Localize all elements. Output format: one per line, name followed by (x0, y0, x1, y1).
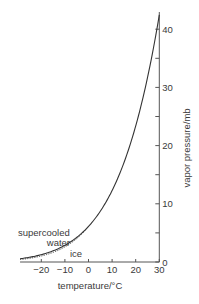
y-tick-label: 30 (162, 82, 173, 93)
x-axis-label: temperature/°C (58, 280, 123, 291)
x-tick-label: −20 (33, 264, 49, 275)
x-tick-label: 10 (107, 264, 118, 275)
water-curve (20, 15, 159, 259)
vapor-pressure-chart: −20−100102030010203040 temperature/°C va… (0, 0, 199, 304)
annotation-ice: ice (70, 248, 82, 259)
y-axis-label: vapor pressure/mb (181, 108, 192, 187)
x-tick-label: −10 (57, 264, 73, 275)
x-tick-label: 20 (130, 264, 141, 275)
x-tick-label: 0 (86, 264, 91, 275)
series (20, 15, 159, 260)
y-tick-label: 10 (162, 198, 173, 209)
y-tick-label: 20 (162, 140, 173, 151)
annotation-water: water (46, 237, 70, 248)
y-tick-label: 0 (162, 257, 167, 268)
y-tick-label: 40 (162, 24, 173, 35)
